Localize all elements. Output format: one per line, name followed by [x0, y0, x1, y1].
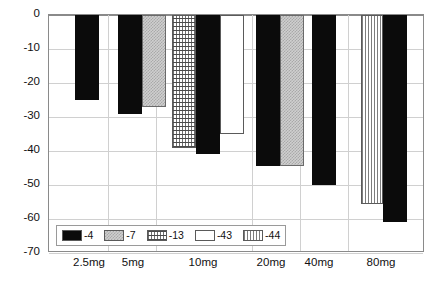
bar-series-layer	[49, 15, 423, 251]
bar-80mg--44	[361, 15, 383, 204]
bar-20mg--7	[280, 15, 304, 166]
bar-40mg--4	[312, 15, 336, 185]
legend-item--4: -4	[62, 230, 93, 241]
legend-label: -44	[265, 230, 280, 241]
y-tick-label: -40	[0, 144, 40, 156]
y-tick-label: -60	[0, 212, 40, 224]
bar-10mg--13	[172, 15, 196, 148]
legend-label: -4	[84, 230, 93, 241]
legend-item--43: -43	[195, 230, 232, 241]
legend-item--7: -7	[104, 230, 135, 241]
x-axis-labels: 2.5mg5mg10mg20mg40mg80mg	[48, 256, 424, 278]
x-tick-label-20mg: 20mg	[257, 256, 286, 268]
plot-area	[48, 14, 424, 252]
y-tick-label: -20	[0, 76, 40, 88]
x-tick-label-80mg: 80mg	[367, 256, 396, 268]
bar-5mg--4	[118, 15, 142, 114]
bar-10mg--4	[196, 15, 220, 154]
legend-label: -43	[217, 230, 232, 241]
bar-2.5mg--4	[75, 15, 99, 100]
bar-5mg--7	[142, 15, 166, 107]
legend-swatch-icon	[62, 230, 82, 241]
x-tick-label-40mg: 40mg	[305, 256, 334, 268]
legend-label: -13	[169, 230, 184, 241]
legend-item--13: -13	[147, 230, 184, 241]
x-tick-label-10mg: 10mg	[189, 256, 218, 268]
x-tick-label-5mg: 5mg	[122, 256, 144, 268]
bar-10mg--43	[220, 15, 244, 134]
legend-label: -7	[126, 230, 135, 241]
legend-swatch-icon	[104, 230, 124, 241]
legend-swatch-icon	[147, 230, 167, 241]
bar-20mg--4	[256, 15, 280, 166]
legend-swatch-icon	[243, 230, 263, 241]
bar-80mg--4	[383, 15, 407, 222]
y-tick-label: -50	[0, 178, 40, 190]
y-tick-label: -30	[0, 110, 40, 122]
y-tick-label: -10	[0, 42, 40, 54]
gridline--70	[49, 253, 423, 254]
legend-swatch-icon	[195, 230, 215, 241]
y-axis-labels: 0-10-20-30-40-50-60-70	[0, 14, 44, 252]
chart-legend: -4-7-13-43-44	[56, 225, 286, 246]
y-tick-label: 0	[0, 8, 40, 20]
x-tick-label-2.5mg: 2.5mg	[73, 256, 105, 268]
legend-item--44: -44	[243, 230, 280, 241]
bar-chart: 0-10-20-30-40-50-60-70 -4-7-13-43-44 2.5…	[0, 0, 444, 287]
y-tick-label: -70	[0, 246, 40, 258]
